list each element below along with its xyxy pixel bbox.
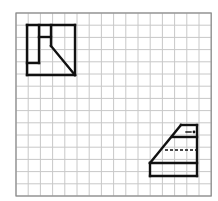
bottom-right-figure <box>150 125 197 176</box>
figure-line <box>51 46 75 75</box>
grid-drawing <box>0 0 218 201</box>
figure-line <box>150 125 181 163</box>
grid-paper <box>16 13 211 196</box>
dot-mark <box>193 131 196 134</box>
